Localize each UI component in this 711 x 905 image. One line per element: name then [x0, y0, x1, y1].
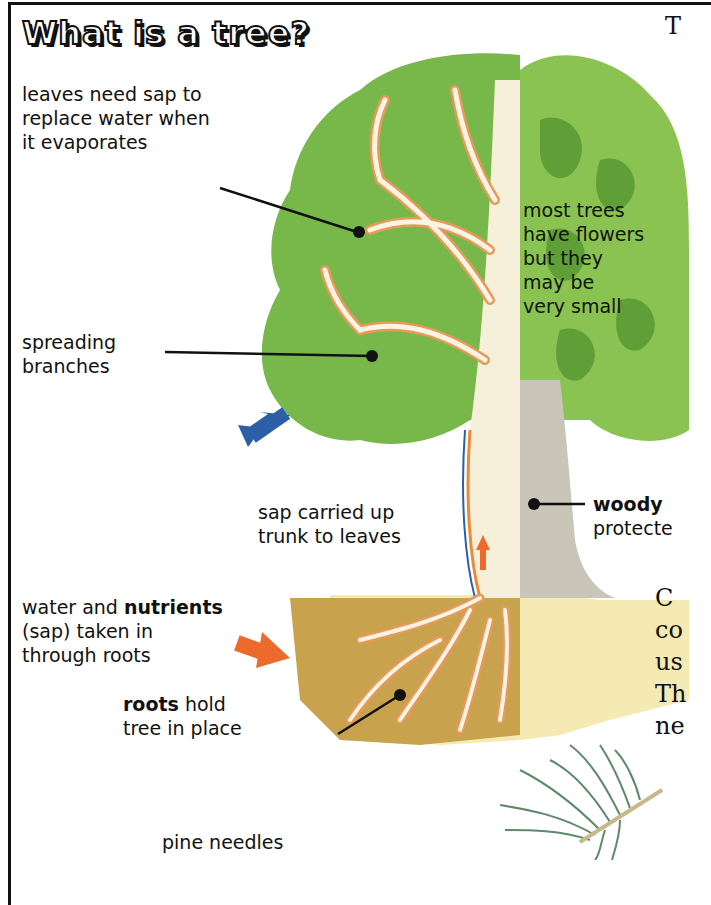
cutoff-body-text: C co us Th ne	[655, 582, 686, 742]
label-sap-carried-up: sap carried up trunk to leaves	[258, 500, 401, 548]
cutoff-heading-text: T	[665, 12, 681, 40]
label-pine-needles: pine needles	[162, 830, 283, 854]
label-nutrients: water and nutrients (sap) taken in throu…	[22, 595, 223, 667]
page-title: What is a tree?	[22, 14, 310, 52]
label-leaves: leaves need sap to replace water when it…	[22, 82, 210, 154]
label-branches: spreading branches	[22, 330, 116, 378]
sap-up-arrow-icon	[480, 548, 486, 570]
label-flowers: most trees have flowers but they may be …	[523, 198, 644, 318]
label-woody: woody protecte	[593, 492, 673, 540]
label-roots: roots hold tree in place	[123, 692, 242, 740]
